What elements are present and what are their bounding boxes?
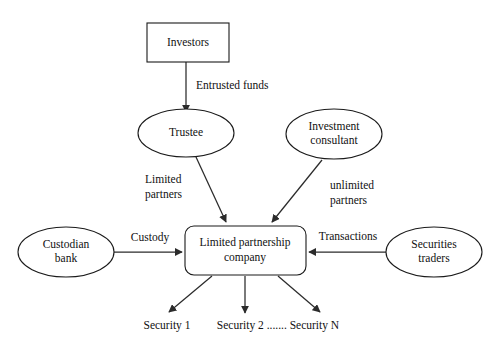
node-securities-traders-label-line1: Securities — [411, 238, 457, 250]
edge-company-to-security-n — [278, 276, 320, 312]
edge-label-limited-partners-line1: Limited — [145, 173, 182, 185]
node-custodian-bank-label-line2: bank — [55, 252, 78, 264]
node-limited-partnership-company-label-line1: Limited partnership — [199, 236, 290, 249]
edge-consultant-to-company — [272, 160, 322, 222]
output-label-security-2-to-n: Security 2 ....... Security N — [217, 319, 340, 332]
edge-label-unlimited-partners-line1: unlimited — [330, 179, 374, 191]
edge-label-limited-partners-line2: partners — [145, 188, 183, 201]
edge-company-to-security-1 — [169, 276, 212, 312]
node-securities-traders-label-line2: traders — [418, 252, 450, 264]
node-limited-partnership-company-label-line2: company — [224, 251, 266, 264]
node-custodian-bank-label-line1: Custodian — [43, 238, 90, 250]
edge-trustee-to-company — [196, 157, 226, 222]
edge-label-entrusted-funds: Entrusted funds — [196, 79, 269, 91]
diagram-canvas: Investors Trustee Investment consultant … — [0, 0, 504, 350]
node-investors-label: Investors — [167, 36, 210, 48]
node-investment-consultant-label-line2: consultant — [310, 134, 358, 146]
edge-label-custody: Custody — [131, 231, 170, 244]
edge-label-transactions: Transactions — [319, 230, 378, 242]
output-label-security-1: Security 1 — [144, 319, 191, 332]
edge-label-unlimited-partners-line2: partners — [330, 194, 368, 207]
flow-diagram: Investors Trustee Investment consultant … — [0, 0, 504, 350]
node-trustee-label: Trustee — [169, 126, 203, 138]
node-investment-consultant-label-line1: Investment — [308, 120, 360, 132]
